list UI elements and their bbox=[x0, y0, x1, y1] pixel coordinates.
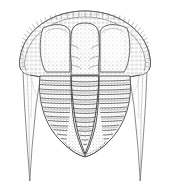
left-palpebral-lobe bbox=[40, 25, 70, 72]
trilobite-illustration bbox=[0, 0, 170, 196]
glabella bbox=[71, 23, 100, 75]
illustration-stage bbox=[0, 0, 170, 196]
right-palpebral-lobe bbox=[100, 25, 130, 72]
